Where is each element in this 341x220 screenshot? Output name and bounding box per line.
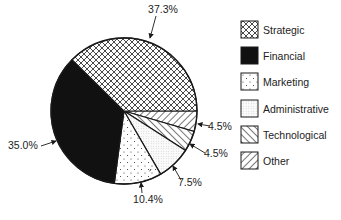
legend-label-financial: Financial bbox=[263, 50, 305, 62]
leader-arrow bbox=[41, 141, 56, 146]
legend-label-strategic: Strategic bbox=[263, 24, 304, 36]
slice-label-technological: 4.5% bbox=[204, 147, 228, 159]
pie-slices bbox=[51, 38, 197, 184]
slice-label-other: 4.5% bbox=[208, 120, 232, 132]
legend-label-technological: Technological bbox=[263, 129, 327, 141]
legend-swatch-financial bbox=[241, 47, 258, 64]
legend-swatch-other bbox=[241, 152, 258, 169]
slice-label-financial: 35.0% bbox=[8, 139, 38, 151]
slice-label-marketing: 10.4% bbox=[133, 193, 163, 205]
legend-swatch-marketing bbox=[241, 73, 258, 90]
legend-swatch-strategic bbox=[241, 21, 258, 38]
leader-arrow bbox=[190, 144, 205, 153]
legend: StrategicFinancialMarketingAdministrativ… bbox=[241, 21, 329, 169]
leader-arrow bbox=[150, 16, 156, 38]
legend-label-other: Other bbox=[263, 155, 290, 167]
legend-swatch-technological bbox=[241, 126, 258, 143]
slice-label-strategic: 37.3% bbox=[148, 3, 178, 15]
leader-arrow bbox=[141, 183, 142, 193]
legend-swatch-administrative bbox=[241, 100, 258, 117]
slice-label-administrative: 7.5% bbox=[178, 176, 202, 188]
legend-label-administrative: Administrative bbox=[263, 103, 329, 115]
legend-label-marketing: Marketing bbox=[263, 76, 309, 88]
pie-chart: 37.3%35.0%10.4%7.5%4.5%4.5% StrategicFin… bbox=[0, 0, 341, 220]
